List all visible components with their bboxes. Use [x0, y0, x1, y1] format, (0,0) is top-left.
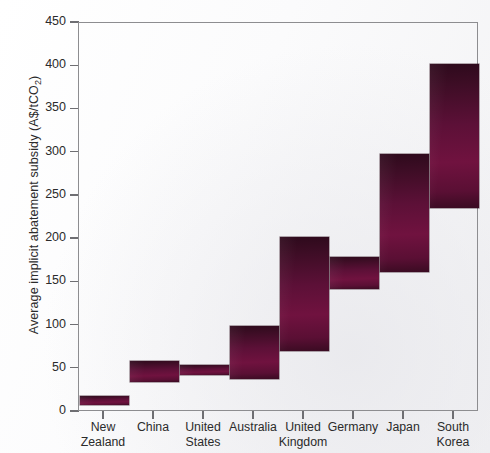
y-axis-tick-label: 50 [26, 361, 66, 374]
range-bar [230, 326, 279, 380]
range-bar [380, 154, 429, 272]
y-axis-title-main: Average implicit abatement subsidy (A$/t… [27, 85, 41, 334]
y-axis-tick-label: 300 [26, 145, 66, 158]
y-axis-tick-label-wrap: 0 [20, 404, 66, 417]
range-bar [80, 396, 129, 405]
y-axis-tick-label: 200 [26, 231, 66, 244]
y-axis-tick-label: 400 [26, 58, 66, 71]
y-axis-title: Average implicit abatement subsidy (A$/t… [27, 25, 41, 385]
x-axis-tick [302, 411, 303, 419]
chart-figure: Average implicit abatement subsidy (A$/t… [0, 0, 490, 453]
y-axis-tick-label: 150 [26, 274, 66, 287]
x-axis-tick-label: SouthKorea [415, 420, 490, 449]
x-axis-tick-label-line: Kingdom [265, 435, 341, 450]
range-bar [280, 237, 329, 351]
x-axis-tick [402, 411, 403, 419]
y-axis-tick-label: 250 [26, 188, 66, 201]
x-axis-tick [452, 411, 453, 419]
x-axis-tick [252, 411, 253, 419]
y-axis-tick-label: 450 [26, 15, 66, 28]
y-axis-tick-label: 350 [26, 101, 66, 114]
y-axis-tick-label-wrap: 150 [20, 274, 66, 287]
x-axis-tick-label-line: States [165, 435, 241, 450]
y-axis-title-subscript: 2 [33, 80, 43, 85]
x-axis-tick [352, 411, 353, 419]
y-axis-tick-label: 0 [26, 404, 66, 417]
x-axis-tick-label-line: Zealand [65, 435, 141, 450]
y-axis-tick-label-wrap: 300 [20, 145, 66, 158]
plot-area [78, 22, 478, 411]
y-axis-tick-label-wrap: 450 [20, 15, 66, 28]
x-axis-tick [152, 411, 153, 419]
range-bar [430, 64, 479, 207]
x-axis-tick [202, 411, 203, 419]
y-axis-tick-label: 100 [26, 318, 66, 331]
range-bar [130, 361, 179, 382]
range-bar [180, 365, 229, 375]
y-axis-tick-label-wrap: 350 [20, 101, 66, 114]
y-axis-tick-label-wrap: 200 [20, 231, 66, 244]
x-axis-tick-label-line: Korea [415, 435, 490, 450]
y-axis-tick-label-wrap: 100 [20, 318, 66, 331]
y-axis-tick-label-wrap: 250 [20, 188, 66, 201]
range-bar [330, 257, 379, 289]
x-axis-tick [102, 411, 103, 419]
x-axis-tick-label-line: South [415, 420, 490, 435]
y-axis-tick-label-wrap: 50 [20, 361, 66, 374]
y-axis-tick-label-wrap: 400 [20, 58, 66, 71]
